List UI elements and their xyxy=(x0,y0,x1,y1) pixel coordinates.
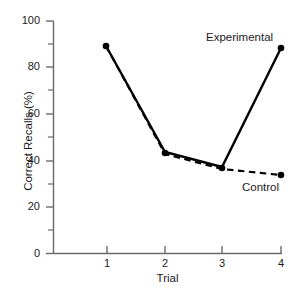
data-point-experimental-trial4 xyxy=(278,45,285,52)
x-axis-label: Trial xyxy=(53,272,282,284)
x-tick-label-4: 4 xyxy=(273,258,289,269)
x-tick-label-2: 2 xyxy=(157,258,173,269)
series-label-control: Control xyxy=(242,181,279,193)
line-chart-figure: 100 80 60 40 20 0 1 2 3 4 Correct Recall… xyxy=(0,0,299,293)
data-point-control-trial4 xyxy=(278,172,285,179)
series-markers xyxy=(103,43,285,179)
x-tick-label-1: 1 xyxy=(99,258,115,269)
series-label-experimental: Experimental xyxy=(206,31,273,43)
data-point-trial2 xyxy=(162,150,169,157)
data-point-trial3 xyxy=(219,165,226,172)
x-axis-ticks xyxy=(107,246,281,254)
plot-area xyxy=(0,0,299,293)
series-line-control xyxy=(106,46,281,175)
series-line-experimental xyxy=(106,46,281,167)
data-point-trial1 xyxy=(103,43,110,50)
y-axis-minor-ticks xyxy=(48,44,54,230)
x-tick-label-3: 3 xyxy=(214,258,230,269)
y-tick-label-100: 100 xyxy=(14,15,40,26)
y-tick-label-0: 0 xyxy=(14,248,40,259)
y-axis-label: Correct Recalls (%) xyxy=(22,66,34,216)
